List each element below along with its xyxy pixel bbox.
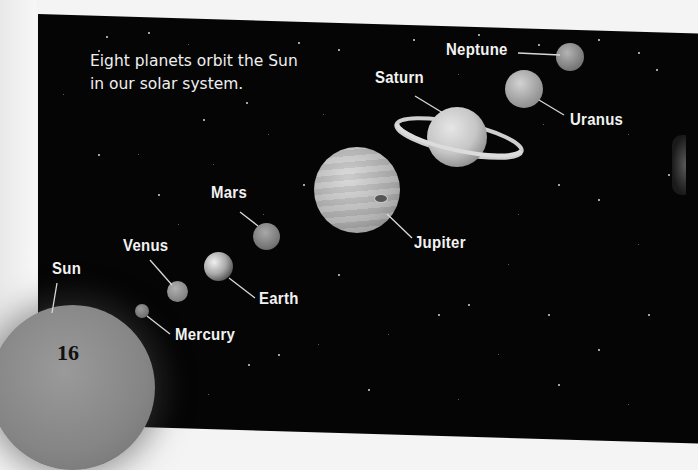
saturn-leader-line — [415, 96, 443, 113]
sun-leader-line — [52, 283, 57, 313]
label-earth: Earth — [259, 289, 299, 309]
label-mars: Mars — [211, 183, 247, 203]
venus-leader-line — [150, 260, 172, 285]
label-neptune: Neptune — [446, 40, 508, 60]
page-number: 16 — [57, 340, 79, 366]
neptune — [556, 43, 584, 71]
earth-leader-line — [229, 278, 255, 298]
intro-text: Eight planets orbit the Sun in our solar… — [90, 50, 298, 96]
label-uranus: Uranus — [570, 110, 623, 130]
neptune-leader-line — [518, 53, 560, 55]
label-sun: Sun — [52, 259, 81, 279]
saturn — [427, 107, 487, 167]
mercury-leader-line — [147, 316, 170, 334]
mars-leader-line — [240, 212, 258, 226]
label-mercury: Mercury — [175, 325, 235, 345]
label-venus: Venus — [123, 236, 168, 256]
label-jupiter: Jupiter — [414, 233, 466, 253]
intro-line-1: Eight planets orbit the Sun — [90, 50, 298, 73]
uranus — [505, 70, 543, 108]
intro-line-2: in our solar system. — [90, 73, 298, 96]
uranus-leader-line — [539, 100, 564, 115]
jupiter-leader-line — [387, 214, 412, 238]
label-saturn: Saturn — [375, 68, 424, 88]
